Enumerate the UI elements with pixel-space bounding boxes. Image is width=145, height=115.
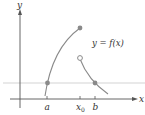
x-axis-label: x <box>139 94 144 104</box>
y-axis-label: y <box>16 0 23 10</box>
function-diagram: y x y = f(x) a x0 b <box>0 0 145 115</box>
function-label: y = f(x) <box>91 38 124 48</box>
open-point-right-start <box>78 56 83 61</box>
filled-point-at-b <box>93 81 98 86</box>
left-curve <box>45 28 80 96</box>
filled-point-at-a <box>45 81 50 86</box>
tick-b-label: b <box>93 102 99 112</box>
x-axis-arrow-icon <box>132 97 138 101</box>
tick-x0-label: x0 <box>76 102 85 113</box>
filled-point-left-end <box>78 26 83 31</box>
right-curve <box>80 59 108 94</box>
tick-a-label: a <box>45 102 50 112</box>
tick-x0-subscript: 0 <box>81 106 85 113</box>
